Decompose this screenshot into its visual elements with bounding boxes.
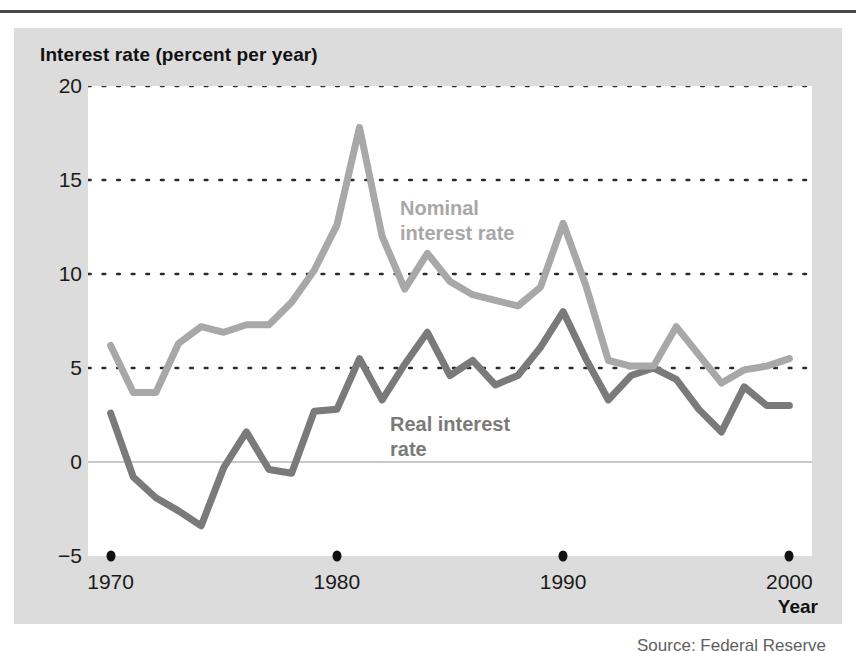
x-axis-tick-2000: 2000	[766, 570, 813, 594]
x-axis-tick-1980: 1980	[314, 570, 361, 594]
x-axis-tick-dot-1970	[106, 551, 115, 562]
y-axis-tick-20: 20	[36, 74, 82, 98]
series-annotation-real: Real interest rate	[390, 412, 510, 462]
chart-plot-svg	[88, 86, 812, 556]
y-axis-tick-15: 15	[36, 168, 82, 192]
top-divider	[0, 10, 856, 13]
figure-page: Interest rate (percent per year) 2015105…	[0, 0, 856, 651]
x-axis-tick-dot-1980	[332, 551, 341, 562]
x-axis-tick-dot-2000	[785, 551, 794, 562]
y-axis-tick-0: 0	[36, 450, 82, 474]
source-note: Source: Federal Reserve	[0, 636, 856, 651]
y-axis-tick-5: 5	[36, 356, 82, 380]
x-axis-tick-dot-1990	[559, 551, 568, 562]
y-axis-tick-labels: 20151050−5	[20, 0, 82, 651]
x-axis-label: Year	[778, 596, 818, 618]
y-axis-tick-10: 10	[36, 262, 82, 286]
series-annotation-nominal: Nominal interest rate	[400, 196, 515, 246]
x-axis-tick-1970: 1970	[87, 570, 134, 594]
x-axis-tick-1990: 1990	[540, 570, 587, 594]
plot-area	[88, 86, 812, 556]
y-axis-tick--5: −5	[36, 544, 82, 568]
